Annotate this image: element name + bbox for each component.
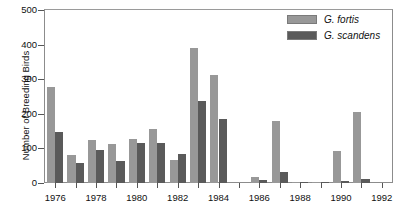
x-tick-mark: [382, 183, 383, 188]
bar-g-scandens: [137, 143, 145, 183]
bar-g-scandens: [219, 119, 227, 183]
y-tick-label: 500: [21, 5, 37, 15]
x-tick-mark: [219, 183, 220, 188]
bar-g-fortis: [312, 182, 320, 183]
y-tick-label: 300: [21, 74, 37, 84]
bar-g-scandens: [178, 154, 186, 183]
x-tick-mark: [341, 183, 342, 188]
x-tick-label: 1988: [290, 192, 311, 203]
x-tick-label: 1986: [249, 192, 270, 203]
bar-g-scandens: [96, 150, 104, 183]
x-tick-mark: [137, 183, 138, 188]
legend-item-g-fortis[interactable]: G. fortis: [287, 14, 380, 25]
bar-g-scandens: [341, 181, 349, 183]
bar-g-fortis: [210, 75, 218, 183]
x-tick-mark: [178, 183, 179, 188]
x-tick-mark: [259, 183, 260, 188]
legend-swatch-icon-g-scandens: [287, 31, 317, 40]
y-tick-label: 200: [21, 109, 37, 119]
bar-g-scandens: [361, 179, 369, 183]
x-tick-label: 1978: [85, 192, 106, 203]
x-tick-mark: [321, 183, 322, 188]
x-tick-mark: [76, 183, 77, 188]
bar-g-fortis: [129, 139, 137, 183]
bar-g-fortis: [170, 160, 178, 183]
y-tick-label: 400: [21, 40, 37, 50]
bar-g-fortis: [272, 121, 280, 183]
y-tick-label: 100: [21, 143, 37, 153]
x-tick-mark: [116, 183, 117, 188]
x-tick-mark: [300, 183, 301, 188]
bar-g-scandens: [116, 161, 124, 183]
bar-g-fortis: [251, 177, 259, 183]
x-tick-mark: [96, 183, 97, 188]
bar-g-scandens: [198, 101, 206, 183]
bar-g-scandens: [259, 180, 267, 183]
x-tick-label: 1980: [126, 192, 147, 203]
bar-g-scandens: [300, 182, 308, 183]
legend: G. fortis G. scandens: [287, 14, 380, 46]
x-tick-label: 1992: [371, 192, 392, 203]
bar-g-fortis: [67, 155, 75, 183]
legend-swatch-icon-g-fortis: [287, 15, 317, 24]
x-tick-mark: [280, 183, 281, 188]
bar-g-scandens: [321, 182, 329, 183]
x-tick-mark: [361, 183, 362, 188]
bar-g-scandens: [157, 143, 165, 183]
bar-g-fortis: [47, 87, 55, 183]
x-tick-mark: [157, 183, 158, 188]
legend-label-g-fortis: G. fortis: [324, 14, 359, 25]
bar-g-scandens: [55, 132, 63, 183]
legend-item-g-scandens[interactable]: G. scandens: [287, 30, 380, 41]
x-tick-label: 1982: [167, 192, 188, 203]
y-tick-label: 0: [32, 178, 37, 188]
bar-g-fortis: [190, 48, 198, 183]
bar-g-fortis: [292, 182, 300, 183]
x-tick-mark: [198, 183, 199, 188]
x-tick-label: 1990: [330, 192, 351, 203]
bar-g-fortis: [333, 151, 341, 183]
bar-chart: Number of Breeding Birds 010020030040050…: [0, 0, 408, 217]
bar-g-fortis: [108, 144, 116, 183]
x-tick-mark: [239, 183, 240, 188]
bar-g-scandens: [280, 172, 288, 183]
x-tick-mark: [55, 183, 56, 188]
x-tick-label: 1976: [45, 192, 66, 203]
bar-g-fortis: [353, 112, 361, 183]
bar-g-scandens: [76, 163, 84, 183]
bar-g-fortis: [149, 129, 157, 183]
x-tick-label: 1984: [208, 192, 229, 203]
legend-label-g-scandens: G. scandens: [324, 30, 380, 41]
y-tick-mark: [38, 183, 44, 184]
bar-g-fortis: [88, 140, 96, 183]
